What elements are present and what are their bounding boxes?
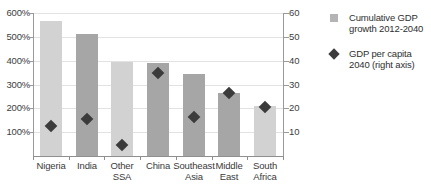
category-tick: [33, 156, 34, 160]
right-axis-tick: [284, 108, 289, 109]
bar-india[interactable]: [76, 34, 98, 156]
left-axis-tick: [28, 61, 33, 62]
left-axis-tick-label: 500%: [0, 32, 30, 42]
category-tick: [212, 156, 213, 160]
left-axis-tick: [28, 37, 33, 38]
left-axis-tick: [28, 132, 33, 133]
left-axis-tick-label: 300%: [0, 80, 30, 90]
right-axis-tick-label: 60: [289, 8, 305, 18]
legend-label-line2: growth 2012-2040: [349, 23, 430, 34]
right-axis-tick-label: 30: [289, 80, 305, 90]
category-label-south-africa: SouthAfrica: [242, 160, 288, 182]
category-tick: [69, 156, 70, 160]
category-tick: [104, 156, 105, 160]
bar-nigeria[interactable]: [40, 21, 62, 156]
right-axis-tick-label: 50: [289, 32, 305, 42]
legend-item-cumulative-gdp-growth[interactable]: Cumulative GDP growth 2012-2040: [330, 12, 430, 34]
right-axis-tick: [284, 61, 289, 62]
bar-south-africa[interactable]: [254, 106, 276, 156]
category-label-line1: South: [242, 160, 288, 171]
gridline: [33, 37, 283, 38]
left-axis-tick-label: 400%: [0, 56, 30, 66]
category-tick: [176, 156, 177, 160]
chart-root: 100%200%300%400%500%600% 102030405060 Th…: [0, 0, 431, 193]
right-axis-tick: [284, 37, 289, 38]
legend: Cumulative GDP growth 2012-2040 GDP per …: [330, 12, 430, 84]
right-axis-tick: [284, 132, 289, 133]
right-axis-tick: [284, 13, 289, 14]
diamond-marker-icon: [328, 48, 339, 59]
left-axis-tick-labels: 100%200%300%400%500%600%: [0, 0, 30, 193]
bar-middle-east[interactable]: [218, 93, 240, 156]
right-axis-tick-labels: 102030405060: [289, 0, 307, 193]
left-axis-tick-label: 200%: [0, 103, 30, 113]
left-axis-tick: [28, 85, 33, 86]
legend-item-gdp-per-capita[interactable]: GDP per capita 2040 (right axis): [330, 48, 430, 70]
left-axis-tick: [28, 108, 33, 109]
right-axis-tick-label: 40: [289, 56, 305, 66]
category-label-line2: Africa: [242, 171, 288, 182]
square-swatch-icon: [330, 14, 338, 22]
legend-label-line1: GDP per capita: [349, 48, 430, 59]
gridline: [33, 61, 283, 62]
left-axis-tick: [28, 13, 33, 14]
right-axis-tick-label: 20: [289, 103, 305, 113]
legend-label-line2: 2040 (right axis): [349, 59, 430, 70]
legend-label-line1: Cumulative GDP: [349, 12, 430, 23]
category-tick: [247, 156, 248, 160]
category-tick: [283, 156, 284, 160]
gridline: [33, 13, 283, 14]
left-axis-tick-label: 100%: [0, 127, 30, 137]
left-axis-line: [33, 13, 34, 156]
right-axis-tick-label: 10: [289, 127, 305, 137]
left-axis-tick-label: 600%: [0, 8, 30, 18]
right-axis-tick: [284, 85, 289, 86]
category-label-line2: SSA: [99, 171, 145, 182]
category-tick: [140, 156, 141, 160]
